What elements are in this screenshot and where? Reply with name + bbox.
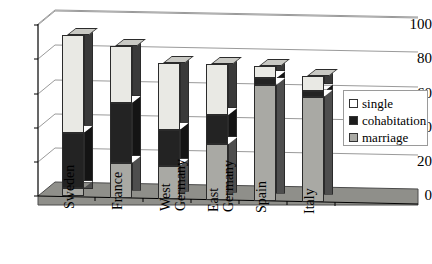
legend-item-single[interactable]: single	[349, 96, 423, 111]
y-tick-label-20: 20	[398, 154, 432, 169]
bar-segment-side-marriage	[324, 90, 333, 195]
x-axis-label-spain: Spain	[255, 181, 269, 213]
legend-label-cohabitation: cohabitation	[362, 114, 426, 127]
x-axis-label-east-germany: East	[207, 187, 221, 211]
legend-item-marriage[interactable]: marriage	[349, 130, 423, 145]
chart-legend: single cohabitation marriage	[343, 90, 428, 146]
bar-segment-side-single	[228, 57, 237, 109]
bar-segment-cohabitation[interactable]	[302, 91, 324, 96]
x-axis-label-west-germany: Germany	[174, 158, 188, 210]
x-axis-label-sweden: Sweden	[63, 164, 77, 208]
bar-segment-single[interactable]	[254, 66, 276, 78]
bar-segment-cohabitation[interactable]	[206, 115, 228, 144]
legend-swatch-marriage-icon	[349, 133, 358, 142]
bar-segment-single[interactable]	[302, 76, 324, 91]
bar-segment-side-single	[180, 56, 189, 123]
bar-segment-single[interactable]	[62, 35, 84, 133]
x-axis-label-west-germany: West	[159, 183, 173, 211]
bar-segment-cohabitation[interactable]	[110, 103, 132, 163]
bar-segment-single[interactable]	[158, 63, 180, 130]
bar-segment-side-single	[84, 28, 93, 126]
y-tick-label-100: 100	[398, 17, 432, 32]
x-axis-label-italy: Italy	[303, 188, 317, 214]
x-axis-label-france: France	[111, 171, 125, 209]
bar-segment-single[interactable]	[110, 46, 132, 103]
bar-segment-side-marriage	[276, 78, 285, 193]
y-tick-label-80: 80	[398, 51, 432, 66]
bar-segment-side-cohabitation	[84, 126, 93, 181]
bar-segment-side-single	[132, 39, 141, 96]
bar-segment-single[interactable]	[206, 64, 228, 116]
legend-item-cohabitation[interactable]: cohabitation	[349, 113, 423, 128]
legend-label-marriage: marriage	[362, 131, 408, 144]
chart-tick-connectors	[38, 11, 55, 162]
legend-swatch-cohabitation-icon	[349, 116, 358, 125]
bar-segment-marriage[interactable]	[302, 97, 324, 202]
bar-segment-cohabitation[interactable]	[254, 78, 276, 85]
x-axis-label-east-germany: Germany	[222, 159, 236, 211]
bar-segment-side-cohabitation	[132, 96, 141, 156]
legend-swatch-single-icon	[349, 99, 358, 108]
legend-label-single: single	[362, 97, 393, 110]
y-tick-label-0: 0	[398, 188, 432, 203]
stacked-bar-chart: 100 80 60 40 20 0 SwedenFranceWestGerman…	[0, 0, 432, 264]
y-axis-ticks	[34, 25, 38, 196]
